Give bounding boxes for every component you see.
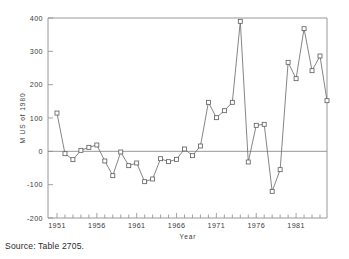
series-markers <box>55 19 329 193</box>
x-tick-label-1951: 1951 <box>48 221 66 230</box>
data-series <box>55 19 329 193</box>
x-tick-label-1956: 1956 <box>88 221 106 230</box>
x-tick-label-1961: 1961 <box>128 221 146 230</box>
source-note: Source: Table 2705. <box>5 241 84 251</box>
x-axis: 1951 1956 1961 1966 1971 1976 1981 <box>48 213 305 230</box>
y-tick-label-400: 400 <box>30 14 43 23</box>
x-tick-label-1971: 1971 <box>208 221 226 230</box>
y-axis: 400 300 200 100 0 -100 -200 <box>27 14 53 223</box>
x-tick-label-1981: 1981 <box>287 221 305 230</box>
plot-frame <box>48 18 327 218</box>
y-tick-label-200: 200 <box>30 80 43 89</box>
y-tick-label-0: 0 <box>39 147 43 156</box>
y-tick-label-300: 300 <box>30 47 43 56</box>
x-axis-title: Year <box>180 233 197 240</box>
chart-figure: 400 300 200 100 0 -100 -200 <box>0 0 349 259</box>
x-axis-minor-ticks <box>65 215 320 219</box>
y-tick-label-neg100: -100 <box>27 180 43 189</box>
y-tick-label-100: 100 <box>30 114 43 123</box>
series-line-path <box>57 21 327 191</box>
y-axis-title: M US of 1980 <box>19 92 26 143</box>
y-tick-label-neg200: -200 <box>27 214 43 223</box>
x-tick-label-1966: 1966 <box>168 221 186 230</box>
line-chart: 400 300 200 100 0 -100 -200 <box>0 0 349 259</box>
x-tick-label-1976: 1976 <box>247 221 265 230</box>
